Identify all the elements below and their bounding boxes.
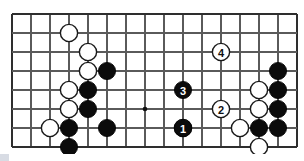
- black-stone: [98, 62, 115, 79]
- stone-disc-black: [98, 119, 115, 136]
- white-stone: [79, 62, 96, 79]
- numbered-stone-2: 2: [212, 100, 229, 117]
- numbered-stone-1: 1: [174, 119, 191, 136]
- stone-move-number: 1: [180, 123, 186, 135]
- stone-move-number: 3: [180, 85, 186, 97]
- go-board-canvas: 3124: [0, 0, 304, 161]
- black-stone: [60, 119, 77, 136]
- stone-disc-white: [79, 62, 96, 79]
- stone-disc-black: [98, 62, 115, 79]
- stone-disc-white: [41, 119, 58, 136]
- white-stone: [60, 24, 77, 41]
- black-stone: [269, 100, 286, 117]
- stone-disc-black: [79, 81, 96, 98]
- board-star-points: [143, 107, 148, 112]
- stone-disc-white: [250, 100, 267, 117]
- stone-disc-white: [60, 81, 77, 98]
- stone-disc-white: [60, 24, 77, 41]
- stone-disc-white: [231, 119, 248, 136]
- go-diagram-root: 3124: [0, 0, 304, 161]
- stone-disc-black: [250, 119, 267, 136]
- strip-accent-block: [0, 154, 9, 161]
- black-stone: [269, 119, 286, 136]
- white-stone: [250, 81, 267, 98]
- black-stone: [79, 81, 96, 98]
- stone-disc-black: [269, 62, 286, 79]
- white-stone: [250, 100, 267, 117]
- stone-disc-black: [269, 81, 286, 98]
- stone-disc-black: [79, 100, 96, 117]
- black-stone: [269, 81, 286, 98]
- black-stone: [250, 119, 267, 136]
- white-stone: [231, 119, 248, 136]
- stone-disc-black: [60, 119, 77, 136]
- numbered-stone-4: 4: [212, 43, 229, 60]
- stone-disc-black: [269, 100, 286, 117]
- stone-disc-black: [269, 119, 286, 136]
- black-stone: [79, 100, 96, 117]
- go-board-figure: 3124: [0, 0, 304, 161]
- bottom-strip: [0, 154, 304, 161]
- white-stone: [79, 43, 96, 60]
- white-stone: [41, 119, 58, 136]
- stone-move-number: 2: [218, 104, 224, 116]
- numbered-stone-3: 3: [174, 81, 191, 98]
- stone-disc-white: [250, 81, 267, 98]
- black-stone: [98, 119, 115, 136]
- star-point: [143, 107, 148, 112]
- white-stone: [60, 100, 77, 117]
- stone-move-number: 4: [218, 47, 225, 59]
- stone-disc-white: [79, 43, 96, 60]
- white-stone: [60, 81, 77, 98]
- stone-disc-white: [60, 100, 77, 117]
- black-stone: [269, 62, 286, 79]
